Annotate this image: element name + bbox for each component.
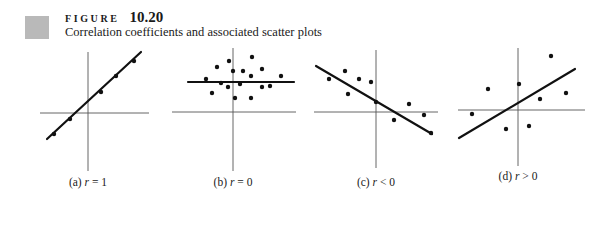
data-point: [231, 69, 235, 73]
data-point: [369, 80, 373, 84]
data-point: [241, 69, 245, 73]
relation-value: < 0: [377, 176, 395, 188]
data-point: [238, 82, 242, 86]
data-point: [227, 59, 231, 63]
data-point: [68, 117, 72, 121]
data-point: [346, 92, 350, 96]
panel-letter: (b): [214, 176, 230, 188]
panel-letter: (c): [357, 176, 373, 188]
data-point: [564, 91, 568, 95]
scatter-panel-c: [314, 50, 438, 168]
relation-value: = 1: [89, 176, 107, 188]
data-point: [538, 97, 542, 101]
fit-line: [316, 66, 432, 134]
data-point: [260, 67, 264, 71]
data-point: [233, 96, 237, 100]
fit-line: [459, 69, 575, 138]
relation-value: = 0: [234, 176, 252, 188]
data-point: [407, 102, 411, 106]
panel-label-c: (c) r < 0: [357, 176, 395, 188]
data-point: [250, 55, 254, 59]
data-point: [470, 112, 474, 116]
panel-letter: (a): [69, 176, 85, 188]
data-point: [226, 85, 230, 89]
fit-line: [47, 52, 141, 139]
scatter-panel-d: [458, 48, 585, 166]
data-point: [527, 124, 531, 128]
data-point: [504, 127, 508, 131]
data-point: [114, 74, 118, 78]
data-point: [99, 90, 103, 94]
data-point: [279, 74, 283, 78]
data-point: [517, 82, 521, 86]
panel-label-b: (b) r = 0: [214, 176, 253, 188]
data-point: [52, 132, 56, 136]
scatter-panel-a: [40, 52, 149, 171]
data-point: [249, 96, 253, 100]
panel-label-d: (d) r > 0: [499, 170, 538, 182]
data-point: [260, 85, 264, 89]
panel-letter: (d): [499, 170, 515, 182]
data-point: [210, 91, 214, 95]
data-point: [486, 87, 490, 91]
data-point: [374, 100, 378, 104]
data-point: [132, 59, 136, 63]
data-point: [268, 84, 272, 88]
data-point: [343, 69, 347, 73]
data-point: [357, 77, 361, 81]
scatter-panel-b: [172, 48, 296, 171]
data-point: [429, 131, 433, 135]
data-point: [549, 54, 553, 58]
data-point: [392, 118, 396, 122]
data-point: [327, 77, 331, 81]
relation-value: > 0: [519, 170, 537, 182]
data-point: [422, 113, 426, 117]
data-point: [249, 74, 253, 78]
panel-label-a: (a) r = 1: [69, 176, 107, 188]
data-point: [215, 65, 219, 69]
data-point: [204, 77, 208, 81]
data-point: [219, 81, 223, 85]
